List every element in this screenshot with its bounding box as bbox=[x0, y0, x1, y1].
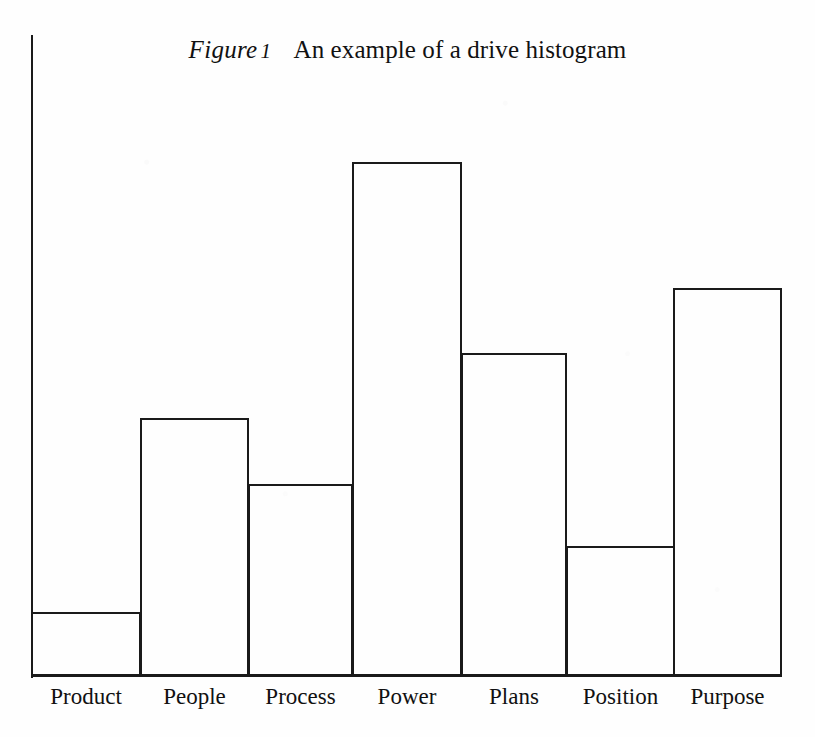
bar-process bbox=[248, 484, 353, 676]
y-axis-line bbox=[31, 35, 33, 678]
x-tick-label-power: Power bbox=[352, 684, 462, 709]
bar-position bbox=[566, 546, 675, 676]
histogram-chart: ProductPeopleProcessPowerPlansPositionPu… bbox=[0, 0, 815, 737]
x-tick-label-people: People bbox=[140, 684, 249, 709]
bar-product bbox=[31, 612, 141, 676]
bar-people bbox=[140, 418, 249, 676]
bar-power bbox=[352, 162, 462, 676]
bar-plans bbox=[461, 353, 567, 676]
bar-purpose bbox=[673, 288, 782, 676]
x-tick-label-position: Position bbox=[566, 684, 675, 709]
x-tick-label-product: Product bbox=[31, 684, 141, 709]
x-tick-label-plans: Plans bbox=[461, 684, 567, 709]
x-tick-label-process: Process bbox=[248, 684, 353, 709]
x-tick-label-purpose: Purpose bbox=[673, 684, 782, 709]
